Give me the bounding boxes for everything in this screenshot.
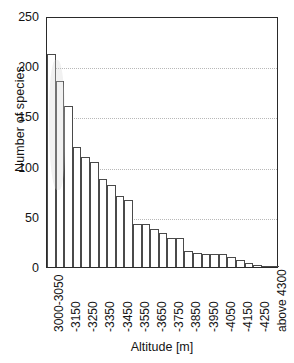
x-tick-label: -3250 xyxy=(87,301,99,332)
bar xyxy=(99,179,108,267)
bar xyxy=(133,224,142,267)
bar xyxy=(107,185,116,267)
bar xyxy=(90,162,99,267)
bar xyxy=(150,229,159,267)
bar xyxy=(219,254,228,267)
bar-series xyxy=(47,18,277,267)
x-tick-label: -3350 xyxy=(104,301,116,332)
bar xyxy=(116,196,125,267)
y-tick-label: 50 xyxy=(25,212,39,225)
y-tick-label: 250 xyxy=(18,11,39,24)
x-tick-label: above 4300 xyxy=(276,269,288,332)
bar xyxy=(193,253,202,267)
x-tick-label: -4150 xyxy=(242,301,254,332)
bar xyxy=(262,266,271,267)
x-tick-label: -3950 xyxy=(208,301,220,332)
bar xyxy=(236,260,245,267)
x-axis-title: Altitude [m] xyxy=(46,340,278,354)
x-axis-tick-labels: 3000-3050-3150-3250-3350-3450-3550-3650-… xyxy=(46,270,278,332)
bar xyxy=(142,224,151,267)
bar xyxy=(270,266,279,267)
bar xyxy=(81,157,90,267)
bar xyxy=(56,81,65,267)
x-tick-label: -4050 xyxy=(225,301,237,332)
plot-inner xyxy=(47,18,277,267)
y-tick-label: 150 xyxy=(18,111,39,124)
x-tick-label: -3450 xyxy=(122,301,134,332)
x-tick-label: -3750 xyxy=(173,301,185,332)
bar xyxy=(210,254,219,267)
x-tick-label: -3550 xyxy=(139,301,151,332)
bar xyxy=(227,257,236,267)
histogram-figure: Number of species 050100150200250 3000-3… xyxy=(0,0,294,363)
x-tick-label: -4250 xyxy=(259,301,271,332)
bar xyxy=(176,238,185,267)
y-axis-tick-labels: 050100150200250 xyxy=(0,0,44,290)
y-tick-label: 0 xyxy=(32,262,39,275)
bar xyxy=(167,238,176,267)
bar xyxy=(64,106,73,267)
y-tick-label: 200 xyxy=(18,61,39,74)
bar xyxy=(245,263,254,267)
bar xyxy=(253,265,262,267)
bar xyxy=(159,233,168,267)
x-tick-label: -3650 xyxy=(156,301,168,332)
x-tick-label: -3150 xyxy=(70,301,82,332)
bar xyxy=(47,54,56,267)
y-tick-label: 100 xyxy=(18,162,39,175)
plot-area xyxy=(46,17,278,268)
bar xyxy=(202,254,211,267)
bar xyxy=(73,147,82,267)
bar xyxy=(124,200,133,267)
x-tick-label: -3850 xyxy=(190,301,202,332)
bar xyxy=(184,251,193,267)
x-tick-label: 3000-3050 xyxy=(53,275,65,332)
